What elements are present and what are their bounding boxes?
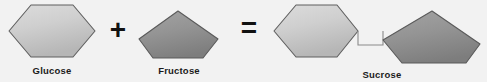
sucrose-label: Sucrose xyxy=(320,70,444,80)
sucrose-pentagon-shape xyxy=(383,11,480,63)
glucose-hexagon-shape xyxy=(9,5,95,57)
fructose-pentagon-shape xyxy=(139,11,218,58)
glycosidic-bond-link xyxy=(358,31,383,45)
sucrose-hexagon-shape xyxy=(274,5,358,57)
equals-operator: = xyxy=(234,14,264,42)
glucose-label: Glucose xyxy=(0,66,104,76)
reaction-diagram: + = Glucose Fructose Sucrose xyxy=(0,0,487,82)
fructose-label: Fructose xyxy=(130,66,228,76)
plus-operator: + xyxy=(104,16,132,44)
